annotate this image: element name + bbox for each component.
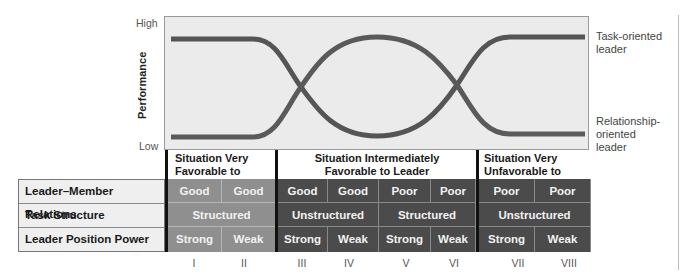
situation-header-intermediate: Situation Intermediately Favorable to Le…: [278, 150, 476, 178]
octant-label-8: VIII: [559, 257, 579, 269]
row-label-task-structure: Task Structure: [19, 204, 164, 228]
octant-label-3: III: [292, 257, 312, 269]
relations-cell-8: Poor: [535, 179, 591, 203]
y-axis-low-label: Low: [139, 140, 158, 152]
row-label-leader-member-relations: Leader–Member Relations: [19, 180, 164, 204]
structure-cell-7-8: Unstructured: [479, 203, 591, 227]
power-cell-1: Strong: [168, 227, 222, 252]
octant-label-2: II: [234, 257, 254, 269]
relations-cell-6: Poor: [431, 179, 476, 203]
octant-label-7: VII: [508, 257, 528, 269]
legend-rel-line3: leader: [596, 141, 660, 154]
power-cell-3: Strong: [278, 227, 328, 252]
structure-cell-5-6: Structured: [379, 203, 476, 227]
legend-task-oriented: Task-oriented leader: [596, 30, 662, 56]
legend-relationship-oriented: Relationship- oriented leader: [596, 115, 660, 154]
octant-label-6: VI: [444, 257, 464, 269]
situation-intermediate-line1: Situation Intermediately: [278, 152, 476, 165]
row-label-leader-position-power: Leader Position Power: [19, 228, 164, 252]
situation-unfavorable-line1: Situation Very: [484, 152, 591, 165]
octant-label-5: V: [396, 257, 416, 269]
divider-middle-right: [476, 150, 479, 252]
row-labels-box: Leader–Member Relations Task Structure L…: [18, 179, 165, 252]
relations-cell-1: Good: [168, 179, 222, 203]
power-cell-6: Weak: [431, 227, 476, 252]
relations-cell-3: Good: [278, 179, 328, 203]
situation-header-unfavorable: Situation Very Unfavorable to Leader: [479, 150, 591, 178]
relations-cell-5: Poor: [379, 179, 431, 203]
relations-cell-4: Good: [328, 179, 379, 203]
page-margin-rule: [678, 15, 679, 270]
situation-favorable-line1: Situation Very: [175, 152, 276, 165]
structure-cell-1-2: Structured: [168, 203, 276, 227]
power-cell-2: Weak: [222, 227, 276, 252]
relationship-oriented-curve: [171, 37, 585, 137]
performance-curves: [165, 17, 590, 151]
situation-header-favorable: Situation Very Favorable to Leader: [168, 150, 276, 178]
divider-middle-left: [275, 150, 278, 252]
structure-cell-3-4: Unstructured: [278, 203, 379, 227]
legend-rel-line2: oriented: [596, 128, 660, 141]
relations-cell-2: Good: [222, 179, 276, 203]
octant-label-4: IV: [339, 257, 359, 269]
octant-label-1: I: [184, 257, 204, 269]
divider-left: [165, 150, 168, 252]
situation-intermediate-line2: Favorable to Leader: [278, 165, 476, 178]
legend-task-line2: leader: [596, 43, 662, 56]
task-oriented-curve: [171, 37, 585, 136]
relations-cell-7: Poor: [479, 179, 535, 203]
y-axis-high-label: High: [136, 17, 158, 29]
power-cell-5: Strong: [379, 227, 431, 252]
performance-chart: [164, 16, 589, 150]
power-cell-8: Weak: [535, 227, 591, 252]
power-cell-4: Weak: [328, 227, 379, 252]
legend-rel-line1: Relationship-: [596, 115, 660, 128]
y-axis-title: Performance: [136, 59, 148, 119]
power-cell-7: Strong: [479, 227, 535, 252]
legend-task-line1: Task-oriented: [596, 30, 662, 43]
